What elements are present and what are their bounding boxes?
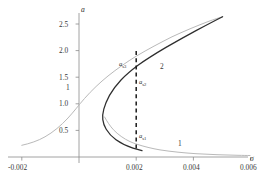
y-tick-label-2: 1.5 <box>59 74 68 81</box>
a-s3-sub: s3 <box>122 64 126 69</box>
x-tick-label-2: 0.004 <box>183 164 200 171</box>
y-tick-label-1: 1.0 <box>59 100 68 107</box>
x-tick-label-0: -0.002 <box>8 164 27 171</box>
a-s2-sub: s2 <box>142 82 146 87</box>
curve-1-lower-label: 1 <box>178 140 182 147</box>
y-tick-label-0: 0.5 <box>59 127 68 134</box>
a-s1-sub: s1 <box>142 136 146 141</box>
y-tick-label-3: 2.0 <box>59 47 68 54</box>
curve-1-upper-label: 1 <box>66 84 70 91</box>
curve-1-lower-path <box>105 117 250 156</box>
x-tick-label-3: 0.006 <box>240 164 257 171</box>
x-tick-label-1: 0.002 <box>126 164 143 171</box>
bifurcation-chart-figure: a σ 0.5 1.0 1.5 2.0 2.5 -0.002 0.002 0.0… <box>0 0 261 185</box>
curve-2-path <box>103 17 223 151</box>
plot-canvas <box>0 0 261 185</box>
a-s2-label: as2 <box>139 79 146 88</box>
y-tick-label-4: 2.5 <box>59 21 68 28</box>
x-axis-ticks <box>22 157 251 161</box>
y-axis-ticks <box>76 24 79 130</box>
y-axis-title: a <box>81 6 85 14</box>
a-s1-label: as1 <box>139 133 146 142</box>
x-axis-title: σ <box>250 155 254 163</box>
curve-1-upper-path <box>22 17 223 146</box>
a-s3-label: as3 <box>119 61 126 70</box>
curve-2-label: 2 <box>160 63 164 70</box>
